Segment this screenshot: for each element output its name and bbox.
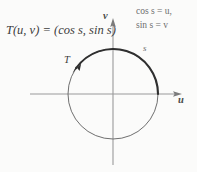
unit-circle-parameterization-figure: T(u, v) = (cos s, sin s) cos s = u, sin … xyxy=(0,0,197,172)
transformation-equation-label: T(u, v) = (cos s, sin s) xyxy=(6,24,116,37)
traced-arc xyxy=(76,49,158,94)
u-axis-label: u xyxy=(178,95,184,106)
arc-parameter-label: s xyxy=(143,44,147,53)
component-equation-cos: cos s = u, xyxy=(136,5,172,19)
v-axis-label: v xyxy=(103,11,108,22)
component-equations-label: cos s = u, sin s = v xyxy=(136,5,172,33)
component-equation-sin: sin s = v xyxy=(136,19,172,33)
map-label: T xyxy=(64,55,70,66)
